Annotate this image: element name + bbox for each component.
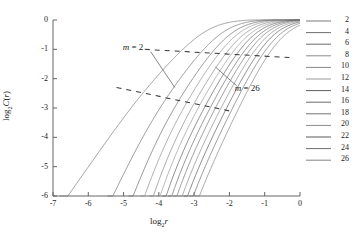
curve-m-12 (156, 20, 300, 196)
legend-label-10[interactable]: 10 (333, 61, 349, 70)
x-tick-label: 0 (291, 199, 309, 208)
x-tick-label: -6 (79, 199, 97, 208)
x-tick-label: -4 (150, 199, 168, 208)
curve-m-26 (195, 25, 300, 196)
legend-label-20[interactable]: 20 (333, 119, 349, 128)
legend-swatches (306, 21, 331, 160)
legend-label-4[interactable]: 4 (333, 27, 349, 36)
x-tick-label: -5 (115, 199, 133, 208)
curve-m-16 (168, 20, 300, 196)
y-axis-label: log2C(r) (1, 78, 13, 134)
legend-label-18[interactable]: 18 (333, 108, 349, 117)
legend-label-6[interactable]: 6 (333, 38, 349, 47)
annotation-label-m26: m = 26 (235, 83, 260, 93)
legend-label-22[interactable]: 22 (333, 131, 349, 140)
curve-m-8 (141, 20, 300, 196)
x-tick-label: -1 (256, 199, 274, 208)
y-tick-label: -4 (31, 132, 48, 141)
x-tick-label: -2 (220, 199, 238, 208)
y-tick-label: -2 (31, 74, 48, 83)
y-tick-label: -1 (31, 44, 48, 53)
legend-label-16[interactable]: 16 (333, 96, 349, 105)
guide-lines (117, 49, 290, 111)
x-tick-label: -7 (44, 199, 62, 208)
legend-label-14[interactable]: 14 (333, 85, 349, 94)
legend-label-12[interactable]: 12 (333, 73, 349, 82)
curve-m-2 (60, 20, 300, 196)
legend-label-2[interactable]: 2 (333, 15, 349, 24)
legend-label-8[interactable]: 8 (333, 50, 349, 59)
y-tick-label: -3 (31, 103, 48, 112)
annotation-leader-line (151, 52, 175, 88)
curve-m-20 (178, 21, 300, 196)
x-axis-label: log2r (150, 216, 168, 228)
data-curves (60, 20, 300, 196)
y-tick-label: -5 (31, 162, 48, 171)
y-tick-label: -6 (31, 191, 48, 200)
curve-m-24 (189, 23, 300, 196)
lower-dashed-guide (117, 87, 230, 110)
legend-label-26[interactable]: 26 (333, 154, 349, 163)
annotation-label-m2: m = 2 (123, 42, 144, 52)
annotation-leaders (151, 52, 237, 88)
y-tick-label: 0 (31, 15, 48, 24)
legend-label-24[interactable]: 24 (333, 143, 349, 152)
curve-m-14 (162, 20, 300, 196)
x-tick-label: -3 (185, 199, 203, 208)
